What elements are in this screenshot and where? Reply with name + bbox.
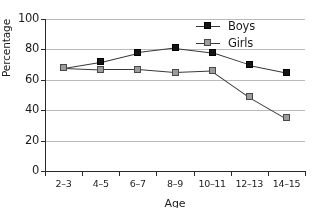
y-label-20: 20 xyxy=(11,135,39,147)
y-axis-title: Percentage xyxy=(0,8,12,88)
line-segment-girls-5 xyxy=(249,97,287,119)
gridline-60 xyxy=(45,80,305,81)
x-tick-6 xyxy=(268,171,269,176)
x-tick-7 xyxy=(305,171,306,176)
y-tick-40 xyxy=(41,110,46,111)
y-label-60: 60 xyxy=(11,74,39,86)
y-axis-line xyxy=(45,19,46,171)
data-point-boys-1[interactable] xyxy=(97,58,104,65)
line-segment-girls-0 xyxy=(64,68,101,71)
legend-item-boys[interactable]: Boys xyxy=(196,19,255,33)
x-tick-2 xyxy=(119,171,120,176)
y-tick-20 xyxy=(41,141,46,142)
y-label-100: 100 xyxy=(11,13,39,25)
legend-label-boys: Boys xyxy=(228,19,255,33)
gridline-20 xyxy=(45,141,305,142)
x-axis-title: Age xyxy=(45,197,305,208)
legend-label-girls: Girls xyxy=(228,36,253,50)
y-label-80: 80 xyxy=(11,43,39,55)
gridline-0 xyxy=(45,171,305,172)
data-point-girls-4[interactable] xyxy=(209,67,216,74)
line-segment-boys-1 xyxy=(101,52,138,62)
data-point-boys-3[interactable] xyxy=(172,44,179,51)
data-point-boys-6[interactable] xyxy=(283,69,290,76)
y-tick-80 xyxy=(41,49,46,50)
legend-line-girls xyxy=(196,43,220,44)
legend-item-girls[interactable]: Girls xyxy=(196,36,253,50)
line-segment-girls-3 xyxy=(175,71,212,74)
legend-marker-boys xyxy=(204,22,211,29)
line-segment-girls-1 xyxy=(101,69,138,70)
y-tick-60 xyxy=(41,80,46,81)
data-point-boys-2[interactable] xyxy=(134,49,141,56)
x-tick-3 xyxy=(156,171,157,176)
line-segment-boys-5 xyxy=(249,65,286,74)
x-label-6: 14–15 xyxy=(263,179,309,189)
data-point-girls-0[interactable] xyxy=(60,64,67,71)
line-segment-boys-4 xyxy=(212,52,249,65)
x-tick-1 xyxy=(82,171,83,176)
x-tick-0 xyxy=(45,171,46,176)
x-tick-4 xyxy=(194,171,195,176)
x-tick-5 xyxy=(231,171,232,176)
data-point-girls-2[interactable] xyxy=(134,66,141,73)
line-chart: 020406080100 2–34–56–78–910–1112–1314–15… xyxy=(0,0,316,208)
chart-title xyxy=(0,0,316,5)
y-tick-100 xyxy=(41,19,46,20)
gridline-40 xyxy=(45,110,305,111)
y-label-40: 40 xyxy=(11,104,39,116)
line-segment-girls-2 xyxy=(138,69,175,73)
line-segment-girls-4 xyxy=(212,71,250,98)
chart-legend: Boys Girls xyxy=(196,19,302,53)
data-point-girls-6[interactable] xyxy=(283,114,290,121)
data-point-girls-5[interactable] xyxy=(246,93,253,100)
legend-marker-girls xyxy=(204,39,211,46)
y-label-0: 0 xyxy=(11,165,39,177)
data-point-girls-1[interactable] xyxy=(97,66,104,73)
data-point-girls-3[interactable] xyxy=(172,69,179,76)
legend-line-boys xyxy=(196,26,220,27)
data-point-boys-5[interactable] xyxy=(246,61,253,68)
